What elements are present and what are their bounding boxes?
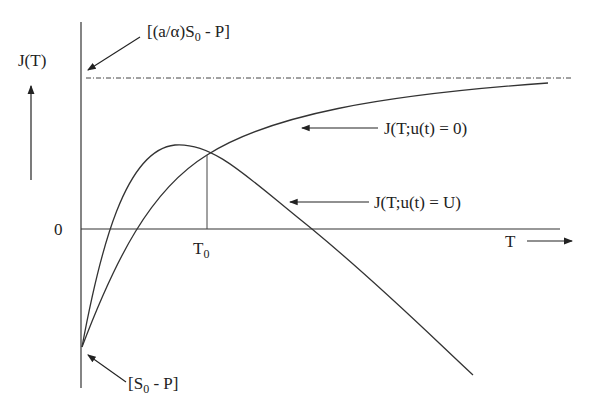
diagram-canvas xyxy=(0,0,591,414)
t0-sub: 0 xyxy=(203,247,209,261)
zero-label: 0 xyxy=(54,221,63,238)
y-axis-label: J(T) xyxy=(18,52,46,69)
int-post: - P] xyxy=(149,374,178,393)
intercept-pointer-icon xyxy=(88,355,126,382)
asym-post: - P] xyxy=(201,22,230,41)
curveU-label: J(T;u(t) = U) xyxy=(374,194,461,211)
asymptote-label: [(a/α)S0 - P] xyxy=(147,23,230,43)
t0-label: T0 xyxy=(193,240,209,260)
asym-pre: [(a/α)S xyxy=(147,22,195,41)
curve-u-zero xyxy=(82,83,548,347)
asymptote-pointer-icon xyxy=(88,37,140,70)
x-axis-label: T xyxy=(505,233,515,250)
t0-main: T xyxy=(193,239,203,258)
curve0-label: J(T;u(t) = 0) xyxy=(384,120,467,137)
intercept-label: [S0 - P] xyxy=(128,375,178,395)
int-pre: [S xyxy=(128,374,143,393)
curve-u-U xyxy=(82,145,473,375)
